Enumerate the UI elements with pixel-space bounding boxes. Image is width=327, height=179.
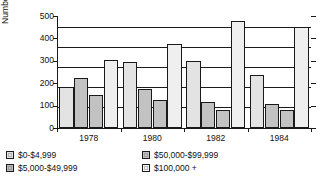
bar-1982-series-0 [186, 61, 200, 128]
legend-swatch-2 [142, 151, 150, 159]
right-tickmark-200 [311, 83, 316, 84]
right-tickmark-100 [311, 106, 316, 107]
legend-item-0[interactable]: $0-$4,999 [6, 150, 56, 160]
right-tickmark-500 [311, 16, 316, 17]
legend-label-1: $5,000-$49,999 [18, 163, 78, 173]
bar-1982-series-3 [231, 21, 245, 128]
y-tick-300: 300 [28, 56, 54, 64]
x-tickmark-0 [57, 128, 58, 132]
legend-label-0: $0-$4,999 [18, 150, 56, 160]
y-axis-label-wrap: Number of Candidates [6, 6, 20, 126]
x-axis-label-1980: 1980 [121, 133, 185, 143]
bar-1984-series-0 [250, 75, 264, 128]
chart-legend: $0-$4,999 $5,000-$49,999 $50,000-$99,999… [6, 150, 321, 177]
legend-item-3[interactable]: $100,000 + [142, 163, 197, 173]
bar-1982-series-1 [201, 102, 215, 128]
legend-label-3: $100,000 + [154, 163, 197, 173]
legend-swatch-3 [142, 164, 150, 172]
plot-bars [57, 16, 311, 128]
bar-1980-series-3 [167, 44, 181, 128]
y-tick-500: 500 [28, 12, 54, 20]
bar-1980-series-2 [153, 100, 167, 128]
legend-item-1[interactable]: $5,000-$49,999 [6, 163, 78, 173]
legend-label-2: $50,000-$99,999 [154, 150, 218, 160]
x-tickmark-4 [311, 128, 312, 132]
x-axis-label-1984: 1984 [248, 133, 312, 143]
y-tick-0: 0 [28, 124, 54, 132]
x-tickmark-1 [121, 128, 122, 132]
bar-1982-series-2 [216, 110, 230, 128]
y-axis-label: Number of Candidates [0, 0, 12, 24]
bar-1984-series-2 [280, 110, 294, 128]
right-tickmark-300 [311, 61, 316, 62]
bar-1978-series-0 [59, 87, 73, 128]
bar-1984-series-3 [294, 27, 308, 128]
bar-1978-series-2 [89, 95, 103, 128]
bar-1980-series-0 [123, 62, 137, 128]
y-axis-tick-labels: 500 400 300 200 100 0 [26, 0, 54, 140]
x-axis-label-1982: 1982 [184, 133, 248, 143]
bar-1980-series-1 [138, 89, 152, 128]
legend-item-2[interactable]: $50,000-$99,999 [142, 150, 218, 160]
y-axis-line [57, 16, 58, 129]
legend-swatch-0 [6, 151, 14, 159]
bar-1978-series-3 [104, 60, 118, 128]
bar-1984-series-1 [265, 104, 279, 128]
right-tickmark-400 [311, 38, 316, 39]
x-tickmark-3 [248, 128, 249, 132]
bar-1978-series-1 [74, 78, 88, 128]
x-axis-label-1978: 1978 [57, 133, 121, 143]
y-tick-200: 200 [28, 79, 54, 87]
legend-swatch-1 [6, 164, 14, 172]
y-tick-100: 100 [28, 101, 54, 109]
y-tick-400: 400 [28, 34, 54, 42]
x-tickmark-2 [184, 128, 185, 132]
